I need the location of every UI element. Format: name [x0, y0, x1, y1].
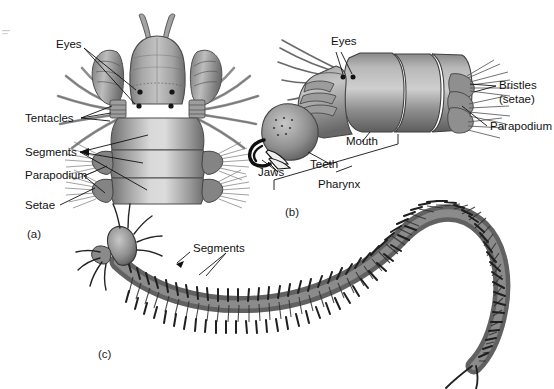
- label-b-parapodium: Parapodium: [490, 120, 552, 133]
- label-a-eyes: Eyes: [56, 38, 82, 51]
- label-a-setae: Setae: [25, 199, 55, 212]
- label-b-bristles: Bristles: [499, 79, 537, 92]
- label-b-jaws: Jaws: [258, 166, 284, 179]
- label-b-teeth: Teeth: [310, 158, 338, 171]
- label-a-tentacles: Tentacles: [25, 112, 74, 125]
- annelid-figure: [0, 0, 554, 389]
- panel-id-a: (a): [27, 228, 41, 240]
- body-segments-dorsal: [110, 118, 206, 206]
- label-a-segments: Segments: [25, 146, 77, 159]
- label-b-pharynx: Pharynx: [318, 178, 360, 191]
- panel-id-b: (b): [285, 206, 299, 218]
- label-b-setae: (setae): [499, 93, 535, 106]
- label-b-mouth: Mouth: [346, 135, 378, 148]
- label-a-parapodium: Parapodium: [25, 169, 87, 182]
- label-b-eyes: Eyes: [331, 35, 357, 48]
- panel-id-c: (c): [98, 348, 111, 360]
- label-c-segments: Segments: [193, 242, 245, 255]
